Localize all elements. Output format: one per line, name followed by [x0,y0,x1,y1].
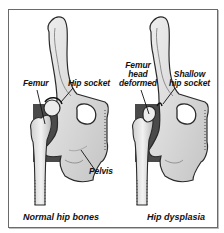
caption-normal: Normal hip bones [23,212,99,222]
label-shallow-hip-socket: Shallow hip socket [169,70,210,88]
femur-head-right [143,107,156,122]
obturator-foramen-right [177,104,196,124]
label-pelvis: Pelvis [89,167,113,176]
pelvis-bone-left [43,17,108,182]
label-femur-head-deformed: Femur head deformed [119,61,157,88]
dysplasia-hip-group [133,17,209,205]
diagram-frame: Femur Hip socket Pelvis Femur head defor… [8,9,218,228]
hip-anatomy-illustration [9,10,217,227]
obturator-foramen-left [77,104,96,124]
caption-dysplasia: Hip dysplasia [147,212,205,222]
label-femur: Femur [23,79,48,88]
pelvis-bone-right [149,17,208,182]
normal-hip-group [31,17,109,205]
femur-head-left [44,100,60,116]
label-hip-socket: Hip socket [68,79,110,88]
